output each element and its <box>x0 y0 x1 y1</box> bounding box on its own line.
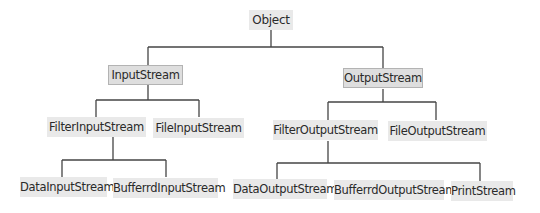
node-file-input-stream: FileInputStream <box>153 118 244 138</box>
node-filter-input-stream: FilterInputStream <box>47 117 146 137</box>
node-bufferrd-input-stream: BufferrdInputStream <box>113 178 218 198</box>
node-data-output-stream: DataOutputStream <box>233 179 327 199</box>
node-object: Object <box>249 10 293 30</box>
node-bufferrd-output-stream: BufferrdOutputStream <box>334 180 444 200</box>
node-filter-output-stream: FilterOutputStream <box>273 120 378 140</box>
node-file-output-stream: FileOutputStream <box>388 121 487 141</box>
node-output-stream: OutputStream <box>343 68 423 88</box>
node-data-input-stream: DataInputStream <box>20 177 107 197</box>
node-input-stream: InputStream <box>108 65 183 85</box>
node-print-stream: PrintStream <box>451 181 513 201</box>
